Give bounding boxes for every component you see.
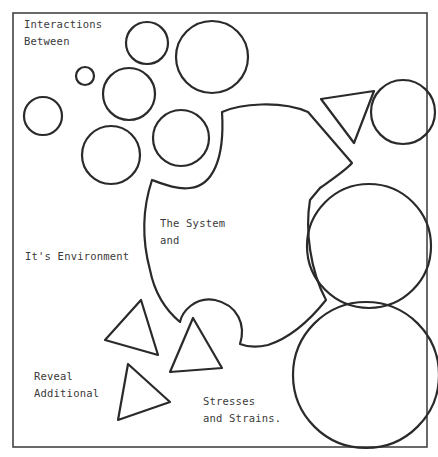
circle-medium-4 bbox=[153, 110, 209, 166]
circle-tiny bbox=[76, 67, 94, 85]
label-interactions: Interactions Between bbox=[24, 16, 102, 50]
label-system: The System and bbox=[160, 215, 225, 249]
label-interactions-line2: Between bbox=[24, 35, 70, 47]
circle-right-bottom bbox=[293, 302, 438, 448]
diagram-canvas: Interactions Between The System and It's… bbox=[0, 0, 438, 457]
label-system-line1: The System bbox=[160, 217, 225, 229]
triangle-1 bbox=[105, 300, 158, 355]
label-stresses-line2: and Strains. bbox=[203, 412, 281, 424]
circle-small-2 bbox=[24, 97, 62, 135]
circle-right-top bbox=[371, 80, 435, 144]
label-reveal-line2: Additional bbox=[34, 387, 99, 399]
triangle-2 bbox=[170, 318, 222, 372]
label-system-line2: and bbox=[160, 234, 180, 246]
label-reveal: Reveal Additional bbox=[34, 368, 99, 402]
label-reveal-line1: Reveal bbox=[34, 370, 73, 382]
circle-medium-2 bbox=[176, 21, 248, 93]
label-environment: It's Environment bbox=[25, 248, 129, 265]
circle-right-middle bbox=[307, 184, 431, 308]
label-stresses-line1: Stresses bbox=[203, 395, 255, 407]
label-interactions-line1: Interactions bbox=[24, 18, 102, 30]
circle-small-1 bbox=[126, 22, 168, 64]
circle-medium-3 bbox=[82, 126, 140, 184]
label-stresses: Stresses and Strains. bbox=[203, 393, 281, 427]
triangle-3 bbox=[118, 364, 170, 420]
circle-medium-1 bbox=[103, 68, 155, 120]
